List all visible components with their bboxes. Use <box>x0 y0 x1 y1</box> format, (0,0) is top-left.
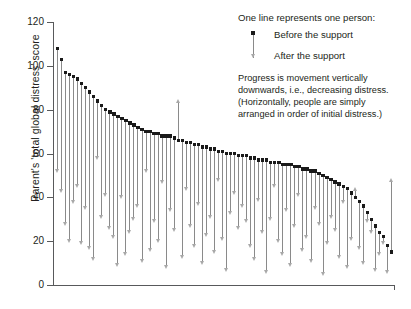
y-axis-tick-label: 40 <box>4 192 44 202</box>
person-line <box>178 101 179 140</box>
after-point <box>309 259 313 263</box>
before-point <box>177 139 180 142</box>
person-line <box>343 186 344 201</box>
person-line <box>351 193 352 239</box>
person-line <box>250 158 251 246</box>
person-line <box>186 143 187 189</box>
before-point <box>241 154 244 157</box>
before-point <box>209 147 212 150</box>
person-line <box>194 145 195 246</box>
before-point <box>140 128 143 131</box>
after-point <box>337 255 341 259</box>
before-point <box>366 211 369 214</box>
person-line <box>81 83 82 243</box>
person-line <box>113 114 114 237</box>
before-point <box>185 141 188 144</box>
x-axis-line <box>53 285 395 286</box>
after-point <box>148 248 152 252</box>
x-axis-end-cap <box>394 285 395 290</box>
person-line <box>371 219 372 232</box>
person-line <box>150 132 151 250</box>
person-line <box>391 180 392 252</box>
before-point <box>217 150 220 153</box>
after-point <box>317 222 321 226</box>
y-axis-tick-label: 60 <box>4 149 44 159</box>
after-point <box>188 224 192 228</box>
before-point <box>342 185 345 188</box>
after-point <box>296 193 300 197</box>
after-point <box>389 178 393 182</box>
person-line <box>234 154 235 193</box>
before-point <box>156 132 159 135</box>
y-axis-tick-label: 0 <box>4 280 44 290</box>
person-line <box>85 88 86 209</box>
person-line <box>327 178 328 244</box>
before-point <box>313 169 316 172</box>
person-line <box>170 136 171 211</box>
after-point <box>140 259 144 263</box>
person-line <box>93 97 94 259</box>
after-point <box>131 217 135 221</box>
after-marker-icon <box>251 54 255 58</box>
before-point <box>201 145 204 148</box>
before-point <box>269 161 272 164</box>
before-point <box>92 95 95 98</box>
person-line <box>125 121 126 255</box>
after-point <box>55 169 59 173</box>
after-point <box>264 270 268 274</box>
after-point <box>244 219 248 223</box>
before-point <box>350 191 353 194</box>
after-point <box>300 248 304 252</box>
after-point <box>152 219 156 223</box>
after-point <box>373 268 377 272</box>
before-point <box>56 47 59 50</box>
person-line <box>133 125 134 219</box>
before-point <box>76 77 79 80</box>
after-point <box>59 189 63 193</box>
after-point <box>240 204 244 208</box>
before-point <box>205 145 208 148</box>
after-point <box>321 272 325 276</box>
before-point <box>160 134 163 137</box>
after-point <box>276 239 280 243</box>
after-point <box>180 255 184 259</box>
person-line <box>105 110 106 195</box>
before-point <box>382 235 385 238</box>
person-line <box>306 169 307 237</box>
person-line <box>137 127 138 206</box>
before-point <box>233 152 236 155</box>
before-point <box>257 158 260 161</box>
before-point <box>362 204 365 207</box>
person-line <box>226 154 227 270</box>
before-point <box>132 123 135 126</box>
before-point <box>116 115 119 118</box>
person-line <box>198 145 199 204</box>
before-point <box>253 156 256 159</box>
before-point <box>358 200 361 203</box>
person-line <box>218 151 219 179</box>
person-line <box>319 173 320 223</box>
after-point <box>325 241 329 245</box>
person-line <box>355 189 356 198</box>
after-point <box>115 263 119 267</box>
person-line <box>182 140 183 256</box>
person-line <box>174 138 175 230</box>
after-point <box>71 200 75 204</box>
person-line <box>339 184 340 256</box>
after-point <box>107 226 111 230</box>
before-point <box>305 167 308 170</box>
person-line <box>258 160 259 199</box>
person-line <box>230 154 231 213</box>
person-line <box>222 151 223 239</box>
after-point <box>164 265 168 269</box>
before-point <box>337 182 340 185</box>
before-point <box>309 169 312 172</box>
person-line <box>367 213 368 222</box>
person-line <box>166 136 167 268</box>
before-point <box>120 117 123 120</box>
y-axis-tick <box>47 154 53 155</box>
legend-note-line: downwards, i.e., decreasing distress. <box>238 84 411 96</box>
person-line <box>254 158 255 259</box>
person-line <box>294 167 295 226</box>
before-point <box>60 58 63 61</box>
